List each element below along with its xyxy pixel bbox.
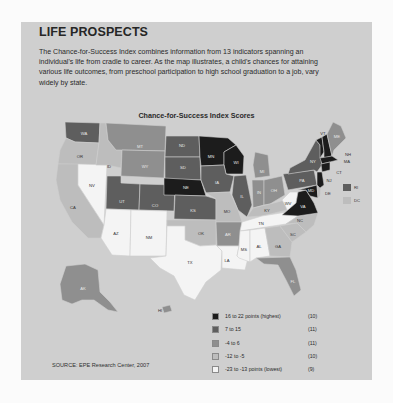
svg-text:WV: WV	[285, 201, 292, 206]
state-NJ	[317, 172, 324, 188]
svg-text:SD: SD	[180, 165, 186, 170]
svg-text:NV: NV	[89, 183, 95, 188]
svg-text:HI: HI	[158, 308, 162, 313]
us-choropleth-map: WA OR CA NV ID MT WY UT CO AZ NM ND SD N…	[0, 0, 393, 403]
svg-text:NY: NY	[310, 159, 316, 164]
svg-text:KY: KY	[264, 208, 270, 213]
state-HI	[162, 305, 172, 313]
svg-text:MN: MN	[208, 154, 215, 159]
legend-swatch	[212, 353, 219, 360]
svg-text:MI: MI	[260, 169, 265, 174]
legend-label: -12 to -5	[225, 353, 244, 359]
state-NM	[130, 210, 167, 256]
legend-label: -23 to -13 points (lowest)	[225, 366, 282, 372]
legend-label: 16 to 22 points (highest)	[225, 313, 281, 319]
svg-text:MT: MT	[137, 144, 143, 149]
svg-text:TX: TX	[187, 260, 193, 265]
svg-text:IA: IA	[215, 180, 219, 185]
svg-text:CA: CA	[70, 205, 76, 210]
legend-count: (11)	[308, 326, 317, 332]
svg-text:WY: WY	[142, 164, 149, 169]
svg-text:FL: FL	[291, 279, 297, 284]
state-DC-box	[343, 197, 351, 204]
svg-text:AR: AR	[225, 232, 231, 237]
svg-text:CO: CO	[152, 203, 159, 208]
svg-text:DE: DE	[325, 191, 331, 196]
svg-text:LA: LA	[224, 258, 229, 263]
svg-text:ME: ME	[334, 134, 340, 139]
svg-text:KS: KS	[190, 208, 196, 213]
legend-swatch	[212, 326, 219, 333]
svg-text:NH: NH	[345, 152, 351, 157]
legend-item-7-15: 7 to 15 (11)	[212, 325, 332, 335]
svg-text:PA: PA	[299, 178, 304, 183]
legend-item-minus4-6: -4 to 6 (11)	[212, 339, 332, 349]
svg-text:MD: MD	[308, 188, 315, 193]
svg-text:GA: GA	[275, 244, 281, 249]
legend-count: (10)	[308, 353, 317, 359]
svg-text:MO: MO	[224, 209, 231, 214]
svg-text:ID: ID	[107, 164, 111, 169]
state-NY	[288, 140, 322, 174]
legend-item-highest: 16 to 22 points (highest) (10)	[212, 312, 332, 322]
svg-text:SC: SC	[290, 232, 296, 237]
source-note: SOURCE: EPE Research Center, 2007	[52, 362, 149, 368]
svg-text:NM: NM	[146, 235, 153, 240]
svg-text:MA: MA	[344, 159, 350, 164]
svg-text:VT: VT	[320, 131, 326, 136]
legend-swatch	[212, 366, 219, 373]
svg-text:NE: NE	[183, 185, 189, 190]
states	[56, 122, 351, 313]
legend-count: (11)	[308, 340, 317, 346]
state-FL	[256, 257, 301, 296]
svg-text:MS: MS	[241, 247, 247, 252]
state-UT	[106, 176, 140, 210]
legend-label: 7 to 15	[225, 326, 241, 332]
svg-text:AL: AL	[256, 244, 262, 249]
svg-text:VA: VA	[300, 204, 305, 209]
svg-text:CT: CT	[336, 170, 342, 175]
svg-text:NC: NC	[297, 218, 303, 223]
svg-text:IN: IN	[257, 190, 261, 195]
svg-text:AZ: AZ	[113, 231, 119, 236]
legend-item-minus12-minus5: -12 to -5 (10)	[212, 352, 332, 362]
svg-text:OK: OK	[198, 231, 204, 236]
legend-label: -4 to 6	[225, 340, 240, 346]
state-AK	[60, 264, 118, 312]
legend-count: (9)	[308, 366, 314, 372]
state-RI-box	[343, 184, 351, 191]
svg-text:WI: WI	[233, 160, 238, 165]
svg-text:UT: UT	[119, 199, 125, 204]
svg-text:NJ: NJ	[326, 178, 331, 183]
state-CT	[321, 162, 330, 172]
svg-text:RI: RI	[354, 185, 358, 190]
legend-count: (10)	[308, 313, 317, 319]
svg-text:ND: ND	[179, 143, 185, 148]
legend-swatch	[212, 340, 219, 347]
svg-text:OH: OH	[271, 188, 277, 193]
svg-text:TN: TN	[258, 221, 264, 226]
svg-text:OR: OR	[77, 154, 83, 159]
legend-swatch	[212, 313, 219, 320]
legend-item-lowest: -23 to -13 points (lowest) (9)	[212, 365, 332, 375]
svg-text:DC: DC	[354, 198, 360, 203]
svg-text:AK: AK	[80, 286, 86, 291]
svg-text:WA: WA	[81, 131, 88, 136]
